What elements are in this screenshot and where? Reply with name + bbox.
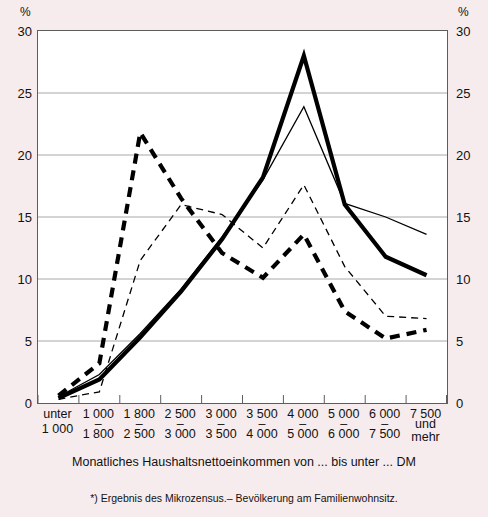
y-tick-label-right-10: 10: [456, 273, 482, 286]
y-tick-label-left-5: 5: [6, 335, 32, 348]
y-tick-label-right-30: 30: [456, 25, 482, 38]
y-tick-label-left-15: 15: [6, 211, 32, 224]
y-tick-label-left-10: 10: [6, 273, 32, 286]
y-tick-label-left-30: 30: [6, 25, 32, 38]
data-series-layer: [58, 56, 426, 399]
y-tick-label-right-5: 5: [456, 335, 482, 348]
series-line-thin-solid: [58, 107, 426, 397]
chart-figure: % % 005510101515202025253030 unter1 0001…: [0, 0, 488, 517]
y-tick-label-right-20: 20: [456, 149, 482, 162]
x-category-label-9: 7 500undmehr: [399, 407, 453, 444]
y-tick-label-left-20: 20: [6, 149, 32, 162]
plot-svg: [38, 31, 447, 403]
plot-area: [37, 30, 448, 404]
source-footnote: *) Ergebnis des Mikrozensus.– Bevölkerun…: [0, 492, 488, 504]
x-axis-category-labels: unter1 0001 000–1 8001 800–2 5002 500–3 …: [37, 407, 448, 453]
y-tick-label-right-0: 0: [456, 397, 482, 410]
y-axis-unit-left: %: [20, 6, 31, 18]
x-axis-ticks: [38, 395, 447, 403]
y-tick-label-right-25: 25: [456, 87, 482, 100]
y-tick-label-right-15: 15: [456, 211, 482, 224]
y-tick-label-left-0: 0: [6, 397, 32, 410]
y-axis-unit-right: %: [458, 6, 469, 18]
x-category-lower-9: undmehr: [399, 418, 453, 444]
y-tick-label-left-25: 25: [6, 87, 32, 100]
x-axis-caption: Monatliches Haushaltsnettoeinkommen von …: [0, 455, 488, 469]
series-line-thick-dashed: [58, 133, 426, 396]
